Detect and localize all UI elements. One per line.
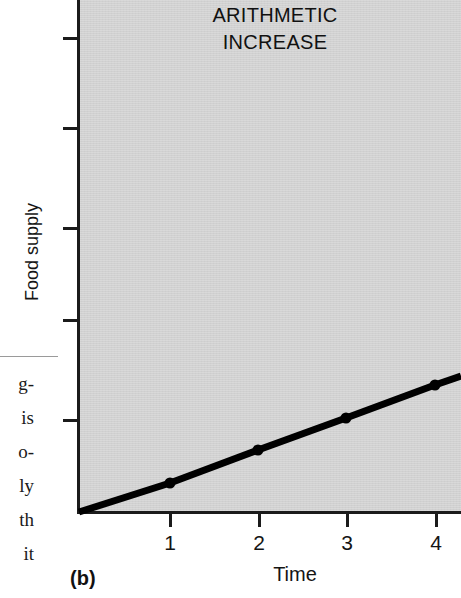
data-series-layer (0, 0, 461, 598)
figure-panel-b: 1 2 3 4 ARITHMETIC INCREASE Food supply … (0, 0, 461, 598)
x-axis-label: Time (240, 562, 350, 586)
panel-label: (b) (70, 566, 96, 590)
data-point-marker-1 (165, 478, 176, 489)
y-axis-label: Food supply (23, 182, 41, 322)
data-point-marker-2 (253, 445, 264, 456)
chart-title-line-2: INCREASE (170, 29, 380, 56)
data-point-marker-4 (430, 380, 441, 391)
data-point-marker-3 (341, 413, 352, 424)
chart-title: ARITHMETIC INCREASE (170, 2, 380, 56)
chart-title-line-1: ARITHMETIC (170, 2, 380, 29)
series-line-food-supply (79, 376, 461, 512)
